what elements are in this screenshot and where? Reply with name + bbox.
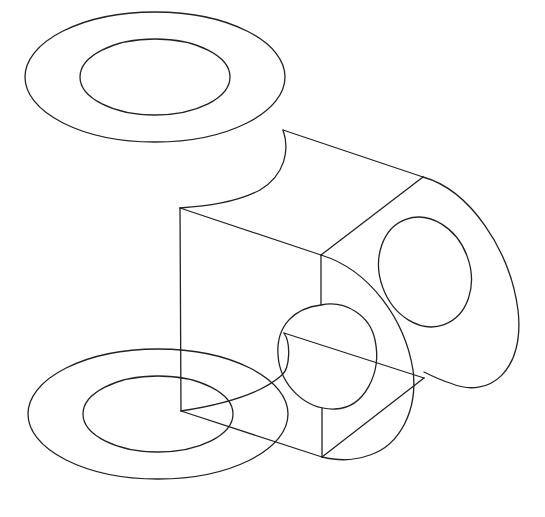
left-vertical-edge [180, 208, 181, 411]
top-ring [25, 12, 285, 142]
drawing-canvas [0, 0, 545, 517]
boss-front-arc [321, 255, 414, 460]
isometric-part-drawing [0, 0, 545, 517]
bottom-right-edge [322, 378, 424, 457]
top-ring-outer [25, 12, 285, 142]
bottom-curve [181, 333, 289, 411]
side-hole [364, 204, 487, 340]
front-hole [278, 304, 377, 409]
side-boss [284, 177, 519, 460]
bottom-front-edge [181, 411, 322, 457]
bottom-ring [28, 349, 288, 479]
top-ring-inner [80, 39, 230, 115]
top-face-curve [180, 130, 286, 208]
top-back-edge [283, 130, 423, 177]
bottom-ring-outer [28, 349, 288, 479]
block-body [180, 130, 424, 457]
front-hole-ellipse [278, 304, 377, 409]
boss-cut-line [284, 333, 424, 378]
top-right-edge [321, 177, 423, 255]
bottom-ring-inner [83, 376, 233, 452]
top-front-edge [180, 208, 321, 255]
